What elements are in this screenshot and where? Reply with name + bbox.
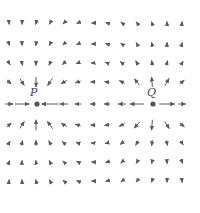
field-arrow [152, 140, 153, 146]
point-p-marker [34, 101, 39, 106]
field-arrow [49, 61, 51, 66]
field-arrow [120, 142, 124, 145]
field-arrow [134, 79, 139, 85]
field-arrow [119, 81, 124, 84]
field-arrow [77, 161, 80, 162]
field-arrow [61, 123, 67, 127]
field-arrow [76, 142, 80, 144]
field-arrow [182, 161, 183, 164]
field-arrow [181, 61, 183, 65]
field-arrow [49, 160, 51, 163]
field-arrow [47, 121, 52, 128]
field-arrow [152, 120, 153, 130]
field-arrow [106, 181, 109, 182]
field-arrow [134, 122, 140, 128]
field-arrow [182, 43, 183, 46]
field-arrow [136, 22, 138, 24]
field-arrow [49, 22, 51, 25]
field-arrow [180, 123, 185, 127]
field-arrow [136, 43, 138, 46]
field-arrow [62, 61, 65, 64]
field-arrow [136, 61, 139, 65]
field-arrow [63, 161, 65, 163]
field-arrow [36, 22, 37, 25]
field-arrow [119, 124, 125, 127]
field-arrow [105, 82, 110, 83]
field-arrow [152, 22, 153, 25]
field-arrow [166, 141, 167, 146]
field-arrow [121, 43, 124, 45]
field-arrow [136, 161, 138, 164]
field-arrow [121, 161, 124, 163]
field-arrow [8, 61, 10, 65]
field-arrow [49, 180, 51, 183]
field-arrow [76, 62, 80, 64]
field-arrow [21, 141, 22, 146]
field-arrow [106, 23, 109, 24]
vector-field-diagram [0, 0, 200, 213]
field-arrow [36, 160, 37, 164]
field-arrow [62, 141, 66, 144]
field-arrow [9, 43, 10, 46]
field-arrow [9, 161, 10, 164]
field-arrow [8, 141, 10, 145]
field-arrow [36, 42, 37, 45]
field-arrow [75, 81, 80, 83]
field-arrow [180, 80, 185, 84]
field-arrow [61, 80, 67, 84]
field-arrow [77, 180, 80, 181]
field-arrow [63, 43, 65, 45]
field-arrow [121, 180, 123, 182]
point-q-label: Q [147, 86, 156, 99]
field-arrow [120, 62, 124, 65]
field-arrow [105, 142, 109, 143]
field-arrow [152, 60, 153, 65]
point-q-marker [150, 101, 155, 106]
field-arrow [106, 44, 109, 45]
field-arrow [49, 43, 51, 46]
field-arrow [63, 180, 65, 182]
field-arrow [105, 125, 110, 126]
field-arrow [152, 160, 153, 164]
field-arrow [7, 80, 12, 84]
field-arrow [181, 141, 183, 145]
field-arrow [49, 141, 51, 146]
field-arrow [77, 22, 80, 23]
field-arrow [136, 180, 138, 182]
field-arrow [7, 123, 12, 127]
field-arrow [21, 61, 22, 66]
field-arrow [105, 62, 109, 63]
field-arrow [121, 22, 123, 24]
field-arrows [5, 22, 186, 183]
field-arrow [106, 162, 109, 163]
field-arrow [136, 141, 139, 146]
field-arrow [20, 79, 24, 86]
field-arrow [165, 78, 169, 85]
field-arrow [36, 180, 37, 183]
field-arrow [165, 121, 170, 128]
field-arrow [166, 61, 167, 66]
point-p-label: P [30, 86, 37, 99]
field-arrow [48, 78, 53, 85]
field-arrow [63, 22, 65, 24]
field-arrow [152, 180, 153, 183]
field-arrow [75, 124, 80, 126]
field-arrow [20, 122, 25, 129]
field-arrow [77, 43, 80, 44]
field-arrow [152, 42, 153, 45]
